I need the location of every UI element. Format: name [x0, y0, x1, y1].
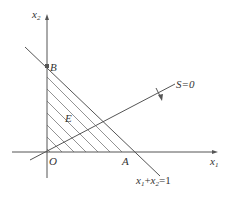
x1-axis-arrow-icon: [212, 150, 218, 154]
objective-direction-arrow-icon: [158, 94, 163, 101]
constraint-line-label: x1+x2=1: [135, 174, 171, 188]
point-a-label: A: [121, 155, 129, 167]
objective-line: [30, 84, 175, 160]
region-e-label: E: [64, 112, 72, 124]
x1-axis-label: x1: [209, 155, 218, 169]
objective-line-label: S=0: [176, 78, 195, 90]
diagram-canvas: x2 x1 B O A E S=0 x1+x2=1: [0, 0, 226, 197]
point-b-label: B: [50, 61, 57, 73]
point-b-marker: [45, 64, 49, 68]
x2-axis-label: x2: [31, 8, 41, 22]
origin-label: O: [49, 155, 57, 167]
x2-axis-arrow-icon: [45, 14, 49, 20]
